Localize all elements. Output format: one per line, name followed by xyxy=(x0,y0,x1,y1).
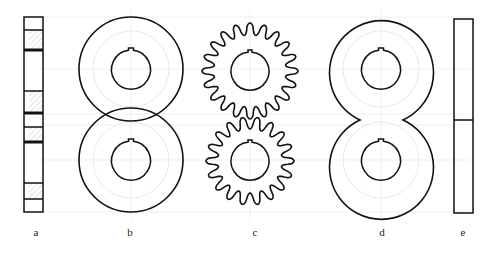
label-a: a xyxy=(34,226,39,238)
figure-canvas xyxy=(0,0,497,255)
panel-a-strip xyxy=(24,17,43,212)
label-e: e xyxy=(461,226,466,238)
panel-d-figure-eight xyxy=(330,21,434,220)
panel-e-side-view xyxy=(454,19,473,213)
label-b: b xyxy=(127,226,133,238)
label-d: d xyxy=(379,226,385,238)
label-c: c xyxy=(253,226,258,238)
